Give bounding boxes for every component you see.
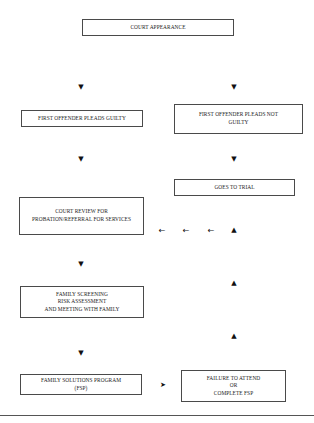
node-family-screening: FAMILY SCREENING RISK ASSESSMENT AND MEE…	[20, 286, 144, 318]
node-court-review: COURT REVIEW FOR PROBATION/REFERRAL FOR …	[19, 197, 144, 235]
node-first-offender-pleads-not-guilty: FIRST OFFENDER PLEADS NOT GUILTY	[174, 104, 303, 134]
arrow-down-icon: ▼	[77, 261, 85, 269]
arrow-down-icon: ▼	[77, 84, 85, 92]
arrow-up-icon: ▲	[230, 333, 238, 341]
node-goes-to-trial: GOES TO TRIAL	[174, 179, 295, 196]
arrow-up-icon: ▲	[230, 227, 238, 235]
arrow-left-icon: ←	[158, 227, 166, 235]
arrow-up-icon: ▲	[230, 280, 238, 288]
arrow-left-icon: ←	[182, 227, 190, 235]
node-family-solutions-program: FAMILY SOLUTIONS PROGRAM (FSP)	[20, 374, 142, 395]
bottom-divider	[0, 415, 314, 416]
arrow-down-icon: ▼	[230, 84, 238, 92]
node-court-appearance: COURT APPEARANCE	[82, 19, 234, 36]
arrow-right-icon: ➤	[159, 382, 167, 390]
arrow-down-icon: ▼	[77, 156, 85, 164]
node-failure-to-attend: FAILURE TO ATTEND OR COMPLETE FSP	[181, 370, 286, 402]
arrow-left-icon: ←	[207, 227, 215, 235]
arrow-down-icon: ▼	[230, 156, 238, 164]
arrow-down-icon: ▼	[77, 350, 85, 358]
node-first-offender-pleads-guilty: FIRST OFFENDER PLEADS GUILTY	[21, 110, 143, 127]
